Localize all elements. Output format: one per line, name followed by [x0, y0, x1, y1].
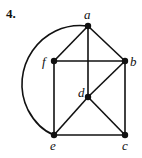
label-c: c	[122, 138, 128, 153]
node-f	[51, 58, 57, 64]
edge-d-e	[54, 97, 88, 135]
edge-b-d	[88, 61, 125, 97]
label-a: a	[84, 7, 91, 22]
node-a	[85, 23, 91, 29]
label-e: e	[50, 138, 56, 153]
graph-diagram: a b f d e c	[0, 0, 142, 158]
edge-a-f	[54, 26, 88, 61]
label-b: b	[130, 54, 137, 69]
edge-d-c	[88, 97, 125, 135]
label-d: d	[78, 85, 85, 100]
node-d	[85, 94, 91, 100]
edge-a-e-arc	[22, 26, 88, 135]
label-f: f	[42, 54, 48, 69]
edge-a-b	[88, 26, 125, 61]
node-b	[122, 58, 128, 64]
